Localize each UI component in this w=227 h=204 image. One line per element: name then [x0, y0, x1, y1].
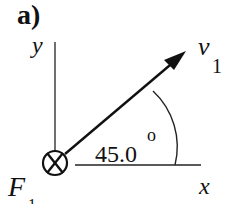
force-symbol: F	[7, 171, 26, 202]
vector-subscript: 1	[212, 55, 222, 77]
y-axis-label: y	[30, 32, 43, 58]
velocity-vector-line	[65, 60, 176, 154]
into-page-force-icon	[43, 151, 67, 175]
panel-label: a)	[17, 0, 40, 30]
angle-value: 45.0	[95, 141, 137, 167]
vector-symbol: v	[198, 32, 210, 61]
force-subscript: 1	[28, 196, 36, 204]
x-axis-label: x	[198, 173, 210, 199]
angle-arc	[153, 91, 177, 165]
vector-diagram: a) y x F 1 v 1 45.0 o	[0, 0, 227, 204]
degree-symbol: o	[147, 125, 156, 145]
